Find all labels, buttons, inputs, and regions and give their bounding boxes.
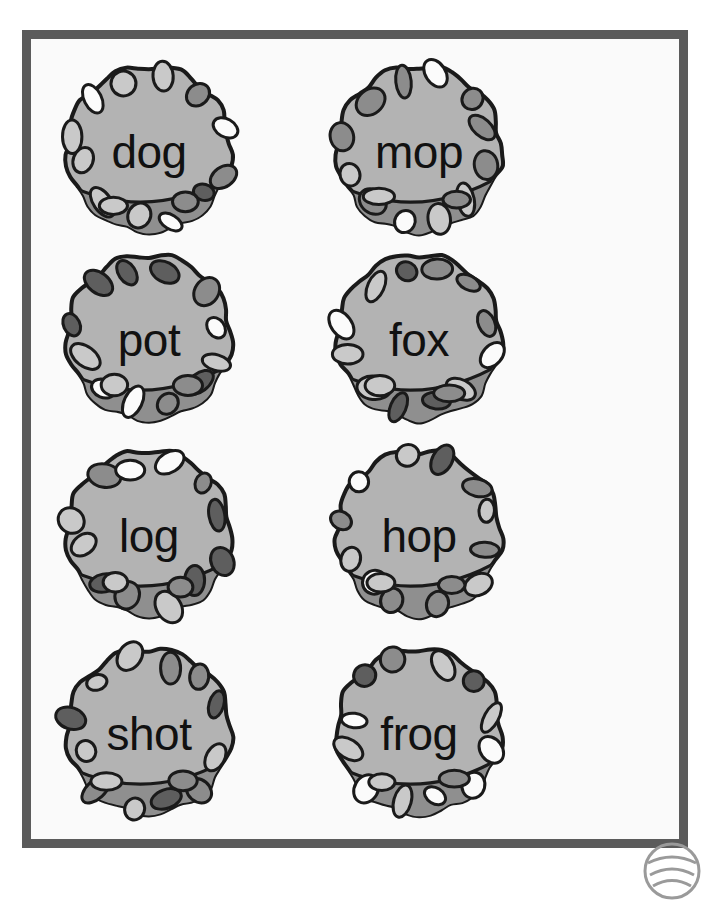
crater bbox=[332, 344, 363, 364]
crater bbox=[470, 542, 500, 558]
ball-shot[interactable]: shot bbox=[49, 633, 249, 833]
crater bbox=[169, 771, 197, 791]
crater bbox=[379, 646, 406, 674]
ball-graphic bbox=[319, 51, 519, 251]
crater bbox=[349, 471, 369, 492]
crater bbox=[152, 61, 174, 92]
ball-mop[interactable]: mop bbox=[319, 51, 519, 251]
crater bbox=[421, 258, 453, 279]
ball-graphic bbox=[319, 435, 519, 635]
crater bbox=[116, 460, 145, 480]
crater bbox=[173, 192, 199, 212]
crater bbox=[438, 577, 465, 594]
ball-graphic bbox=[49, 51, 249, 251]
ball-grid: dogmoppotfoxloghopshotfrog bbox=[31, 39, 679, 839]
crater bbox=[463, 671, 484, 692]
ball-hop[interactable]: hop bbox=[319, 435, 519, 635]
ball-dog[interactable]: dog bbox=[49, 51, 249, 251]
crater bbox=[365, 375, 395, 395]
ball-graphic bbox=[49, 633, 249, 833]
crater bbox=[478, 499, 495, 523]
crater bbox=[99, 197, 127, 214]
crater bbox=[168, 577, 193, 597]
worksheet-frame: dogmoppotfoxloghopshotfrog bbox=[22, 30, 688, 848]
crater bbox=[363, 188, 394, 204]
crater bbox=[160, 652, 180, 684]
ball-log[interactable]: log bbox=[49, 435, 249, 635]
crater bbox=[103, 573, 128, 592]
ball-graphic bbox=[319, 633, 519, 833]
ball-frog[interactable]: frog bbox=[319, 633, 519, 833]
watermark-logo bbox=[640, 837, 704, 901]
crater bbox=[367, 574, 395, 593]
crater bbox=[101, 374, 127, 395]
crater bbox=[443, 191, 471, 208]
ball-fox[interactable]: fox bbox=[319, 239, 519, 439]
crater bbox=[369, 774, 395, 791]
ball-graphic bbox=[49, 435, 249, 635]
crater bbox=[434, 385, 465, 402]
crater bbox=[62, 120, 82, 154]
ball-graphic bbox=[49, 239, 249, 439]
ball-graphic bbox=[319, 239, 519, 439]
crater bbox=[439, 770, 469, 787]
crater bbox=[173, 376, 202, 396]
crater bbox=[188, 663, 210, 690]
ball-pot[interactable]: pot bbox=[49, 239, 249, 439]
crater bbox=[91, 773, 122, 791]
